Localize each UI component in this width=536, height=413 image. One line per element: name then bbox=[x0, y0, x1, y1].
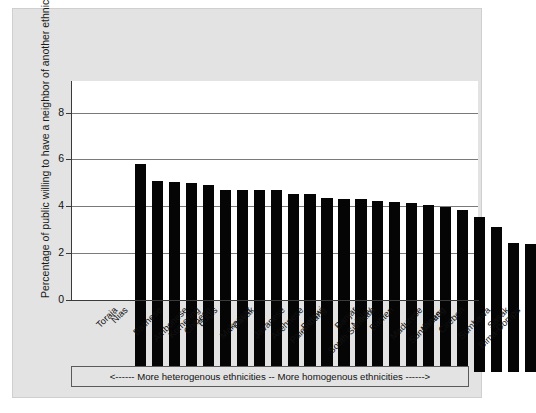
gridline-8 bbox=[71, 113, 478, 114]
y-tick-mark-6 bbox=[66, 159, 72, 160]
plot-area bbox=[71, 81, 478, 300]
y-tick-label-6: 6 bbox=[51, 152, 64, 164]
figure-panel: Percentage of public willing to have a n… bbox=[12, 8, 482, 398]
y-tick-mark-2 bbox=[66, 253, 72, 254]
x-axis-tick-labels: TorajaNiasBalineseAmboneseKomeringChines… bbox=[71, 303, 478, 363]
bar bbox=[491, 227, 502, 372]
y-tick-mark-4 bbox=[66, 206, 72, 207]
y-tick-label-0: 0 bbox=[51, 293, 64, 305]
x-tick-label: Bugis bbox=[196, 305, 220, 329]
scale-annotation-label: <------ More heterogenous ethnicities --… bbox=[72, 367, 468, 386]
y-tick-mark-0 bbox=[66, 300, 72, 301]
y-axis-line bbox=[71, 81, 72, 301]
y-tick-label-8: 8 bbox=[51, 106, 64, 118]
bar bbox=[525, 244, 536, 372]
y-tick-label-4: 4 bbox=[51, 199, 64, 211]
scale-annotation-box: <------ More heterogenous ethnicities --… bbox=[71, 366, 469, 387]
y-tick-label-2: 2 bbox=[51, 246, 64, 258]
x-axis-line bbox=[71, 300, 479, 301]
x-tick-label: Dayak bbox=[231, 305, 257, 331]
y-tick-mark-8 bbox=[66, 113, 72, 114]
